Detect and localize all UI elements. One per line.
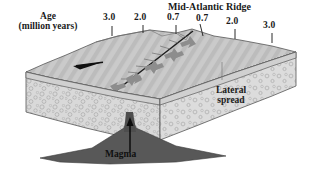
tick-label-right-2: 2.0 bbox=[226, 17, 238, 27]
page-title: Mid-Atlantic Ridge bbox=[168, 2, 251, 13]
tick-label-left-2: 2.0 bbox=[134, 13, 146, 23]
tick-label-left-3: 3.0 bbox=[103, 13, 115, 23]
lateral-spread-line1: Lateral bbox=[216, 85, 246, 95]
lateral-spread-label: Lateral spread bbox=[196, 86, 266, 106]
age-label-line2: (million years) bbox=[19, 21, 78, 31]
tick-label-right-1: 0.7 bbox=[196, 14, 208, 24]
magma-label: Magma bbox=[105, 150, 136, 160]
age-label: Age (million years) bbox=[2, 12, 94, 32]
block-diagram-figure: Mid-Atlantic Ridge Age (million years) 3… bbox=[0, 0, 311, 181]
tick-label-right-3: 3.0 bbox=[263, 21, 275, 31]
age-label-line1: Age bbox=[40, 11, 56, 21]
lateral-spread-line2: spread bbox=[217, 95, 244, 105]
tick-label-left-1: 0.7 bbox=[167, 13, 179, 23]
